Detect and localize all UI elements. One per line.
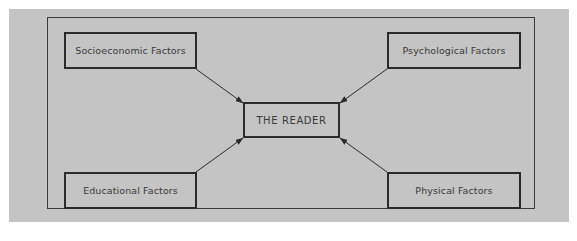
the-reader-label: THE READER: [256, 115, 326, 126]
socioeconomic-factors-box: Socioeconomic Factors: [64, 32, 197, 69]
socioeconomic-factors-label: Socioeconomic Factors: [75, 45, 186, 56]
the-reader-box: THE READER: [243, 102, 340, 138]
physical-factors-label: Physical Factors: [415, 185, 492, 196]
arrow-educational-to-reader: [196, 138, 243, 172]
psychological-factors-label: Psychological Factors: [402, 45, 505, 56]
psychological-factors-box: Psychological Factors: [387, 32, 521, 69]
arrow-physical-to-reader: [340, 138, 387, 172]
arrow-psychological-to-reader: [340, 69, 387, 103]
arrow-socioeconomic-to-reader: [196, 69, 243, 103]
educational-factors-label: Educational Factors: [83, 185, 178, 196]
physical-factors-box: Physical Factors: [387, 172, 521, 209]
educational-factors-box: Educational Factors: [64, 172, 197, 209]
